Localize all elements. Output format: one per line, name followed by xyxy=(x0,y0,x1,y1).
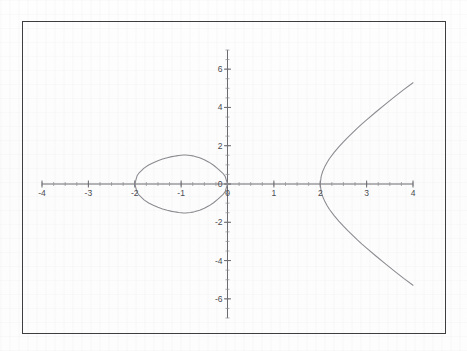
x-tick-label: 4 xyxy=(411,188,416,198)
y-tick-label: 2 xyxy=(218,141,223,151)
x-tick-label: 0 xyxy=(225,188,230,198)
x-tick-label: -3 xyxy=(85,188,93,198)
y-tick-label: -6 xyxy=(215,294,223,304)
y-tick-label: -4 xyxy=(215,256,223,266)
y-tick-label: 6 xyxy=(218,64,223,74)
x-tick-label: 2 xyxy=(318,188,323,198)
x-tick-label: -1 xyxy=(177,188,185,198)
x-tick-label: 3 xyxy=(364,188,369,198)
x-tick-label: -2 xyxy=(131,188,139,198)
y-tick-label: 4 xyxy=(218,102,223,112)
x-tick-label: -4 xyxy=(38,188,46,198)
y-tick-label: -2 xyxy=(215,217,223,227)
elliptic-curve-plot: -4-3-2-101234-6-4-20246 xyxy=(0,0,467,351)
x-tick-label: 1 xyxy=(272,188,277,198)
y-tick-label: 0 xyxy=(218,179,223,189)
